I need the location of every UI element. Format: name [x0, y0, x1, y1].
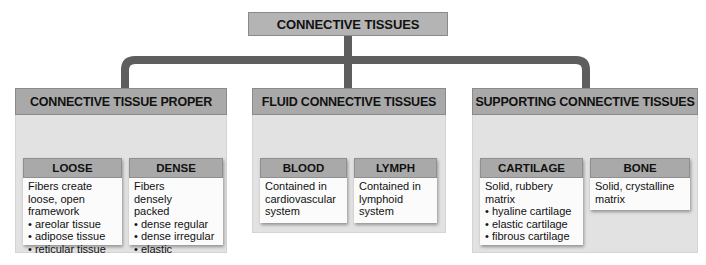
panel-header: CONNECTIVE TISSUE PROPER — [15, 88, 227, 115]
type-box-lymph: LYMPH Contained in lymphoid system — [354, 158, 437, 223]
type-body: Solid, rubbery matrix hyaline cartilage … — [480, 178, 583, 246]
panel-header: SUPPORTING CONNECTIVE TISSUES — [472, 88, 698, 115]
panel-title: FLUID CONNECTIVE TISSUES — [262, 95, 436, 109]
example-item: dense regular — [134, 218, 219, 231]
type-box-cartilage: CARTILAGE Solid, rubbery matrix hyaline … — [480, 158, 583, 245]
panel-title: CONNECTIVE TISSUE PROPER — [30, 95, 212, 109]
top-branch-connector — [125, 60, 586, 90]
type-description: Solid, rubbery matrix — [485, 180, 565, 205]
type-body: Fibers densely packed dense regular dens… — [129, 178, 223, 259]
example-item: elastic cartilage — [485, 218, 579, 231]
example-item: reticular tissue — [28, 243, 118, 256]
type-box-loose: LOOSE Fibers create loose, open framewor… — [23, 158, 122, 245]
type-title: LOOSE — [52, 162, 92, 174]
example-list: areolar tissue adipose tissue reticular … — [28, 218, 118, 256]
panel-title: SUPPORTING CONNECTIVE TISSUES — [475, 95, 694, 109]
example-item: areolar tissue — [28, 218, 118, 231]
example-item: elastic — [134, 243, 219, 256]
type-header: LOOSE — [23, 158, 122, 178]
type-box-blood: BLOOD Contained in cardiovascular system — [260, 158, 347, 223]
type-title: BLOOD — [283, 162, 325, 174]
type-description: Solid, crystalline matrix — [595, 180, 685, 205]
type-body: Contained in lymphoid system — [354, 178, 437, 221]
type-description: Contained in cardiovascular system — [265, 180, 343, 218]
example-item: adipose tissue — [28, 230, 118, 243]
example-list: dense regular dense irregular elastic — [134, 218, 219, 256]
type-description: Fibers create loose, open framework — [28, 180, 118, 218]
root-node-label: CONNECTIVE TISSUES — [277, 17, 420, 32]
type-title: LYMPH — [376, 162, 415, 174]
example-item: hyaline cartilage — [485, 205, 579, 218]
type-header: BLOOD — [260, 158, 347, 178]
example-item: fibrous cartilage — [485, 230, 579, 243]
type-title: CARTILAGE — [498, 162, 565, 174]
type-body: Contained in cardiovascular system — [260, 178, 347, 221]
example-list: hyaline cartilage elastic cartilage fibr… — [485, 205, 579, 243]
type-header: CARTILAGE — [480, 158, 583, 178]
type-title: DENSE — [156, 162, 196, 174]
example-item: dense irregular — [134, 230, 219, 243]
type-box-bone: BONE Solid, crystalline matrix — [590, 158, 690, 210]
type-header: LYMPH — [354, 158, 437, 178]
type-description: Contained in lymphoid system — [359, 180, 425, 218]
type-body: Solid, crystalline matrix — [590, 178, 690, 208]
type-description: Fibers densely packed — [134, 180, 204, 218]
type-box-dense: DENSE Fibers densely packed dense regula… — [129, 158, 223, 245]
type-title: BONE — [623, 162, 656, 174]
type-header: DENSE — [129, 158, 223, 178]
type-header: BONE — [590, 158, 690, 178]
root-node-connective-tissues: CONNECTIVE TISSUES — [248, 12, 448, 36]
type-body: Fibers create loose, open framework areo… — [23, 178, 122, 259]
panel-header: FLUID CONNECTIVE TISSUES — [252, 88, 446, 115]
